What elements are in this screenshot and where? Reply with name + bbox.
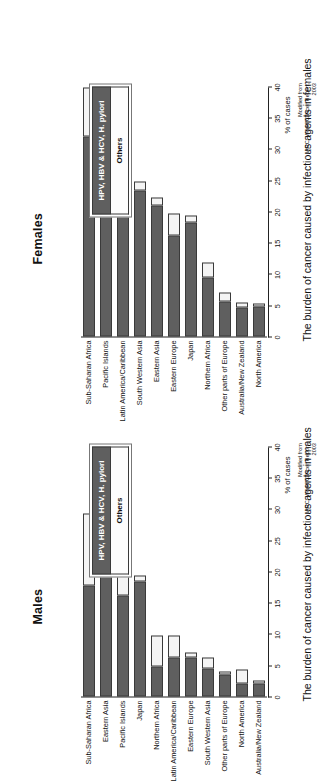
bar-row: South Western Asia [134, 86, 146, 336]
bar-segment-others [151, 197, 163, 205]
category-label: Australia/New Zealand [255, 700, 262, 774]
axis-tick [268, 665, 272, 666]
bar-segment-others [134, 181, 146, 190]
bar-segment-others [134, 575, 146, 581]
chart-panel-males: Males Sub-Saharan AfricaEastern AsiaPaci… [3, 360, 317, 719]
category-label: Sub-Saharan Africa [86, 340, 93, 404]
bar-row: Australia/New Zealand [253, 446, 265, 696]
bar-segment-infectious [202, 277, 214, 336]
bar-row: Other parts of Europe [219, 86, 231, 336]
axis-label-females: % of cases [283, 96, 292, 133]
source-note-females: Modified from IARC: World Cancer Report,… [297, 83, 318, 153]
axis-tick [268, 211, 272, 212]
bar-row: Latin America/Caribbean [168, 446, 180, 696]
source-line-1: Modified from [297, 83, 304, 153]
bar-segment-infectious [134, 581, 146, 696]
chart-title-males: Males [31, 588, 45, 624]
bar-segment-infectious [168, 235, 180, 336]
bar-segment-others [185, 215, 197, 223]
bar-segment-infectious [202, 668, 214, 696]
legend-swatch-others: Others [111, 446, 129, 574]
bar-segment-others [253, 303, 265, 306]
axis-tick [268, 634, 272, 635]
bar-row: South Western Asia [202, 446, 214, 696]
source-line-2: IARC: World Cancer Report, [304, 83, 311, 153]
legend-females: HPV, HBV & HCV, H. pylori Others [89, 83, 132, 217]
bar-segment-others [253, 680, 265, 683]
bar-row: Eastern Europe [185, 446, 197, 696]
chart-panel-females: Females Sub-Saharan AfricaPacific Island… [3, 0, 317, 359]
category-label: Eastern Asia [103, 700, 110, 742]
source-note-males: Modified from IARC: World Cancer Report,… [297, 443, 318, 513]
axis-tick-label: 10 [273, 270, 282, 278]
bar-segment-infectious [219, 674, 231, 696]
source-line-3: 2003 [311, 83, 318, 153]
bar-segment-infectious [168, 657, 180, 696]
bar-segment-others [202, 657, 214, 668]
bar-segment-others [202, 262, 214, 277]
bar-segment-infectious [151, 666, 163, 696]
axis-tick [268, 540, 272, 541]
bar-row: Australia/New Zealand [236, 86, 248, 336]
axis-tick-label: 0 [273, 695, 282, 699]
category-label: Eastern Europe [187, 700, 194, 751]
value-axis-males: 0510152025303540 [268, 447, 269, 697]
category-label: Japan [136, 700, 143, 720]
category-label: Eastern Europe [170, 340, 177, 391]
axis-tick-label: 30 [273, 145, 282, 153]
bar-segment-others [236, 302, 248, 307]
category-label: South Western Asia [136, 340, 143, 405]
category-label: Sub-Saharan Africa [86, 700, 93, 764]
bar-segment-infectious [253, 683, 265, 696]
category-label: Other parts of Europe [221, 700, 228, 771]
legend-swatch-infectious: HPV, HBV & HCV, H. pylori [92, 86, 111, 214]
axis-tick [268, 446, 272, 447]
bar-segment-others [185, 652, 197, 656]
bar-segment-infectious [83, 585, 95, 696]
bar-row: North America [253, 86, 265, 336]
value-axis-females: 0510152025303540 [268, 87, 269, 337]
category-label: Japan [187, 340, 194, 360]
axis-tick [268, 305, 272, 306]
axis-tick-label: 40 [273, 83, 282, 91]
axis-tick-label: 20 [273, 208, 282, 216]
category-label: South Western Asia [204, 700, 211, 765]
bar-row: North America [236, 446, 248, 696]
legend-males: HPV, HBV & HCV, H. pylori Others [89, 443, 132, 577]
axis-tick [268, 509, 272, 510]
bar-segment-others [236, 669, 248, 683]
bar-segment-infectious [134, 190, 146, 336]
bar-segment-others [151, 635, 163, 666]
source-line-2: IARC: World Cancer Report, [304, 443, 311, 513]
axis-tick-label: 35 [273, 474, 282, 482]
bar-segment-infectious [185, 222, 197, 336]
axis-tick-label: 15 [273, 599, 282, 607]
axis-tick-label: 25 [273, 177, 282, 185]
axis-tick [268, 86, 272, 87]
category-label: Northern Africa [153, 700, 160, 749]
category-label: Other parts of Europe [221, 340, 228, 411]
legend-swatch-others: Others [111, 86, 129, 214]
bar-segment-infectious [151, 205, 163, 336]
bar-segment-infectious [100, 565, 112, 696]
axis-tick [268, 696, 272, 697]
axis-tick-label: 5 [273, 304, 282, 308]
bar-row: Eastern Europe [168, 86, 180, 336]
source-line-3: 2003 [311, 443, 318, 513]
category-label: Pacific Islands [103, 340, 110, 387]
axis-tick [268, 336, 272, 337]
axis-tick [268, 477, 272, 478]
figure-root: Males Sub-Saharan AfricaEastern AsiaPaci… [3, 0, 317, 719]
bar-segment-others [168, 214, 180, 235]
bar-segment-infectious [117, 595, 129, 696]
category-label: North America [238, 700, 245, 747]
axis-tick-label: 20 [273, 568, 282, 576]
chart-title-females: Females [31, 213, 45, 264]
bar-segment-infectious [236, 307, 248, 336]
axis-tick [268, 571, 272, 572]
axis-tick-label: 35 [273, 114, 282, 122]
axis-tick-label: 0 [273, 335, 282, 339]
bar-segment-others [168, 635, 180, 658]
category-label: Latin America/Caribbean [120, 340, 127, 421]
category-label: Pacific Islands [120, 700, 127, 747]
